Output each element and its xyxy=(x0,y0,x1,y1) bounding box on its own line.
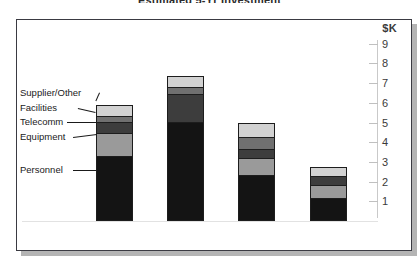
axis-tick xyxy=(369,63,378,64)
axis-tick-label: 4 xyxy=(382,137,388,148)
axis-tick xyxy=(369,142,378,143)
bar-column xyxy=(167,76,204,221)
bar-segment-supplier-other xyxy=(310,167,347,176)
bar-segment-equipment xyxy=(310,185,347,199)
legend-leader-line xyxy=(67,122,96,123)
bar-segment-facilities xyxy=(238,137,275,149)
legend-label-personnel: Personnel xyxy=(20,165,63,175)
bar-segment-telecomm xyxy=(310,176,347,185)
bar-column xyxy=(310,167,347,221)
axis-tick xyxy=(369,123,378,124)
bar-segment-personnel xyxy=(310,198,347,221)
axis-tick-label: 3 xyxy=(382,156,388,167)
bar-segment-supplier-other xyxy=(238,123,275,138)
bar-segment-telecomm xyxy=(167,94,204,122)
chart-root: Estimated 5-Yr Investment $K 123456789 S… xyxy=(0,0,419,270)
axis-tick-label: 8 xyxy=(382,58,388,69)
value-axis-line xyxy=(377,40,378,218)
axis-tick-label: 5 xyxy=(382,117,388,128)
legend-label-facilities: Facilities xyxy=(20,103,57,113)
axis-tick xyxy=(369,182,378,183)
legend-leader-line xyxy=(78,108,96,113)
axis-tick-label: 2 xyxy=(382,176,388,187)
baseline-gridline xyxy=(22,221,378,222)
axis-tick-label: 9 xyxy=(382,38,388,49)
axis-tick-label: 1 xyxy=(382,196,388,207)
bar-segment-supplier-other xyxy=(96,105,133,116)
axis-tick xyxy=(369,44,378,45)
bar-segment-telecomm xyxy=(238,149,275,158)
axis-tick-label: 6 xyxy=(382,97,388,108)
bar-segment-personnel xyxy=(238,175,275,221)
axis-unit-label: $K xyxy=(382,22,397,34)
bar-segment-personnel xyxy=(167,122,204,221)
bar-segment-equipment xyxy=(238,158,275,175)
legend-leader-line xyxy=(95,93,100,101)
bar-segment-telecomm xyxy=(96,122,133,134)
axis-tick xyxy=(369,103,378,104)
bar-segment-equipment xyxy=(96,133,133,156)
legend-leader-line xyxy=(73,134,97,138)
legend-leader-line xyxy=(73,170,96,171)
legend-label-equipment: Equipment xyxy=(20,132,65,142)
plot-area: $K 123456789 Supplier/OtherFacilitiesTel… xyxy=(0,0,419,270)
axis-tick xyxy=(369,162,378,163)
bar-column xyxy=(238,123,275,222)
bar-segment-facilities xyxy=(167,87,204,94)
bar-column xyxy=(96,105,133,221)
bar-segment-supplier-other xyxy=(167,76,204,87)
legend-label-telecomm: Telecomm xyxy=(20,117,63,127)
axis-tick xyxy=(369,83,378,84)
axis-tick-label: 7 xyxy=(382,78,388,89)
axis-tick xyxy=(369,201,378,202)
bar-segment-personnel xyxy=(96,156,133,221)
legend-label-supplier-other: Supplier/Other xyxy=(20,88,81,98)
